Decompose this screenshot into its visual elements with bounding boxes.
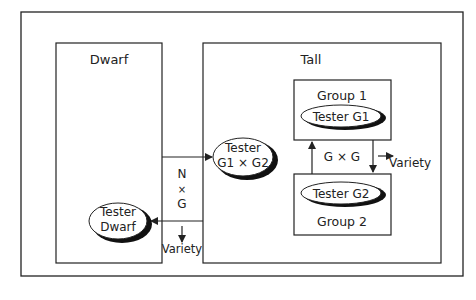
diagram-canvas: Dwarf Tall Group 1 Tester G1 Tester G2 G… (0, 0, 476, 300)
svg-text:Tester G2: Tester G2 (312, 187, 370, 201)
svg-text:Dwarf: Dwarf (100, 220, 136, 234)
group1-label: Group 1 (317, 88, 367, 103)
tall-label: Tall (300, 52, 322, 67)
dwarf-label: Dwarf (90, 52, 129, 67)
nxg-g: G (177, 197, 186, 211)
tester-dwarf-ellipse: Tester Dwarf (89, 203, 152, 243)
svg-text:Tester: Tester (224, 141, 261, 155)
svg-text:Tester: Tester (99, 205, 136, 219)
nxg-variety-label: Variety (162, 242, 203, 256)
tester-g1xg2-ellipse: Tester G1 × G2 (213, 138, 278, 180)
nxg-times: × (178, 184, 186, 195)
group2-label: Group 2 (317, 214, 367, 229)
tester-g2-ellipse: Tester G2 (301, 182, 386, 207)
nxg-n: N (178, 167, 187, 181)
tester-g1-ellipse: Tester G1 (301, 105, 386, 130)
svg-text:Tester G1: Tester G1 (312, 110, 370, 124)
gxg-variety-label: Variety (389, 156, 431, 170)
gxg-label: G × G (324, 150, 360, 164)
svg-text:G1 × G2: G1 × G2 (217, 156, 269, 170)
